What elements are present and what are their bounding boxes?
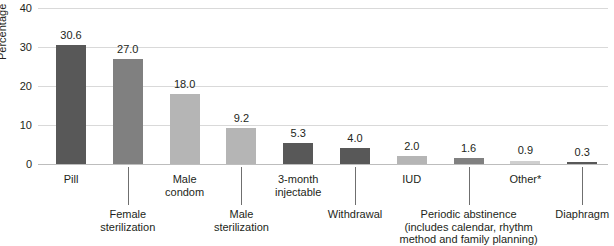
- x-axis-label-2: Femalesterilization: [82, 208, 174, 233]
- label-leader-line: [241, 167, 242, 205]
- x-axis-label-5: 3-monthinjectable: [252, 173, 344, 198]
- bar-value-label: 4.0: [325, 133, 385, 144]
- label-leader-line: [355, 167, 356, 205]
- label-leader-line: [128, 167, 129, 205]
- x-axis-label-7: IUD: [366, 173, 458, 186]
- x-axis-label-9: Other*: [479, 173, 571, 186]
- bar-value-label: 0.9: [495, 145, 555, 156]
- axis-baseline: [38, 164, 608, 165]
- x-axis-label-10: Diaphragm: [536, 208, 614, 221]
- x-label-line: condom: [165, 186, 204, 198]
- x-axis-label-3: Malecondom: [139, 173, 231, 198]
- x-label-line: IUD: [402, 173, 421, 185]
- bar-value-label: 0.3: [552, 147, 612, 158]
- bar-iud[interactable]: [397, 156, 427, 164]
- x-axis-label-8: Periodic abstinence(includes calendar, r…: [374, 208, 564, 246]
- bar-value-label: 30.6: [41, 30, 101, 41]
- x-label-line: Pill: [64, 173, 79, 185]
- x-label-line: method and family planning): [399, 233, 537, 245]
- plot-area: 30.627.018.09.25.34.02.01.60.90.3: [38, 0, 608, 166]
- gridline-40: [38, 8, 608, 9]
- x-axis-label-4: Malesterilization: [195, 208, 287, 233]
- bar-value-label: 2.0: [382, 141, 442, 152]
- bar-value-label: 18.0: [155, 79, 215, 90]
- x-axis-label-1: Pill: [25, 173, 117, 186]
- bar-value-label: 1.6: [439, 143, 499, 154]
- x-label-line: Other*: [509, 173, 541, 185]
- bar-value-label: 5.3: [268, 128, 328, 139]
- x-label-line: sterilization: [100, 221, 155, 233]
- bar-male[interactable]: [170, 94, 200, 164]
- x-label-line: Diaphragm: [555, 208, 609, 220]
- x-label-line: Periodic abstinence: [421, 208, 517, 220]
- y-tick-20: 20: [2, 81, 32, 92]
- x-label-line: Male: [173, 173, 197, 185]
- label-leader-line: [582, 167, 583, 205]
- bar-male[interactable]: [226, 128, 256, 164]
- x-label-line: injectable: [275, 186, 321, 198]
- x-label-line: Male: [229, 208, 253, 220]
- bar-pill[interactable]: [56, 45, 86, 164]
- x-label-line: sterilization: [214, 221, 269, 233]
- bar-value-label: 9.2: [211, 113, 271, 124]
- bar-periodic[interactable]: [454, 158, 484, 164]
- x-label-line: 3-month: [278, 173, 318, 185]
- bar-diaphragm[interactable]: [567, 162, 597, 165]
- x-axis-labels: PillFemalesterilizationMalecondomMaleste…: [38, 166, 608, 242]
- x-label-line: Female: [109, 208, 146, 220]
- bar-withdrawal[interactable]: [340, 148, 370, 164]
- y-tick-10: 10: [2, 120, 32, 131]
- y-tick-0: 0: [2, 159, 32, 170]
- bar-value-label: 27.0: [98, 44, 158, 55]
- x-label-line: (includes calendar, rhythm: [404, 221, 532, 233]
- label-leader-line: [469, 167, 470, 205]
- bar-female[interactable]: [113, 59, 143, 164]
- bar-3-month[interactable]: [283, 143, 313, 164]
- y-axis-title: Percentage: [0, 4, 8, 60]
- bar-other[interactable]: [510, 161, 540, 165]
